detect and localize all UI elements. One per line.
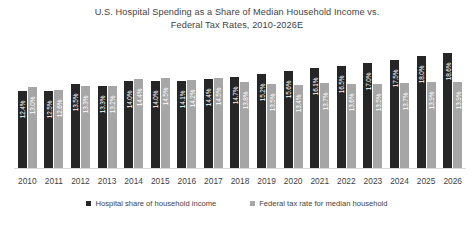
bar-value-label: 14.0% [125,91,132,109]
bar-hospital-share[interactable]: 16.1% [310,68,319,168]
bar-value-label: 14.5% [162,88,169,106]
bar-hospital-share[interactable]: 14.1% [177,81,186,168]
bar-group: 15.6%13.4% [280,44,307,168]
bar-federal-tax-rate[interactable]: 13.7% [320,83,329,168]
bar-group: 17.0%13.5% [360,44,387,168]
x-axis-label: 2020 [280,176,307,186]
x-axis-label: 2015 [147,176,174,186]
bar-value-label: 13.9% [454,92,461,110]
bar-federal-tax-rate[interactable]: 13.9% [427,82,436,168]
bar-hospital-share[interactable]: 18.0% [417,56,426,168]
bar-value-label: 13.7% [401,93,408,111]
bar-group: 13.3%13.2% [94,44,121,168]
bar-value-label: 13.8% [241,92,248,110]
bar-group: 15.2%13.5% [253,44,280,168]
bar-federal-tax-rate[interactable]: 14.2% [187,80,196,168]
bar-value-label: 14.5% [215,88,222,106]
bar-value-label: 12.5% [45,100,52,118]
bar-group: 12.5%12.6% [41,44,68,168]
bar-hospital-share[interactable]: 14.0% [151,81,160,168]
bar-federal-tax-rate[interactable]: 14.5% [214,78,223,168]
bar-federal-tax-rate[interactable]: 13.9% [453,82,462,168]
x-axis-label: 2026 [439,176,466,186]
bar-value-label: 15.6% [285,81,292,99]
bar-group: 14.7%13.8% [227,44,254,168]
bar-value-label: 18.0% [418,66,425,84]
bar-hospital-share[interactable]: 17.0% [363,63,372,168]
bar-group: 18.0%13.9% [413,44,440,168]
bar-federal-tax-rate[interactable]: 13.3% [81,86,90,168]
bar-value-label: 14.7% [231,87,238,105]
bar-group: 14.0%14.5% [147,44,174,168]
bar-hospital-share[interactable]: 18.6% [443,53,452,168]
x-axis-label: 2024 [386,176,413,186]
bar-hospital-share[interactable]: 14.7% [230,77,239,168]
bar-value-label: 14.4% [135,88,142,106]
x-axis-label: 2023 [360,176,387,186]
bar-hospital-share[interactable]: 15.2% [257,74,266,168]
bar-group: 14.4%14.5% [200,44,227,168]
bar-hospital-share[interactable]: 17.5% [390,60,399,169]
bar-value-label: 13.5% [374,94,381,112]
bar-federal-tax-rate[interactable]: 13.4% [294,85,303,168]
bar-hospital-share[interactable]: 16.5% [337,66,346,168]
bar-federal-tax-rate[interactable]: 14.4% [134,79,143,168]
bar-hospital-share[interactable]: 13.3% [98,86,107,168]
legend-swatch-icon-federal-tax-rate [250,201,255,206]
bar-value-label: 13.5% [268,94,275,112]
bar-hospital-share[interactable]: 14.4% [204,79,213,168]
bar-federal-tax-rate[interactable]: 13.5% [267,84,276,168]
bar-value-label: 13.2% [109,96,116,114]
bar-hospital-share[interactable]: 15.6% [284,71,293,168]
bar-value-label: 13.4% [295,95,302,113]
bar-value-label: 13.3% [99,95,106,113]
bar-value-label: 16.5% [338,75,345,93]
bar-value-label: 13.3% [82,95,89,113]
bar-federal-tax-rate[interactable]: 13.2% [108,86,117,168]
bar-hospital-share[interactable]: 13.5% [71,84,80,168]
legend-item-hospital-share[interactable]: Hospital share of household income [86,199,216,208]
chart-title-line-1: U.S. Hospital Spending as a Share of Med… [0,6,474,19]
bar-federal-tax-rate[interactable]: 13.5% [373,84,382,168]
bar-value-label: 17.0% [364,72,371,90]
bar-group: 13.5%13.3% [67,44,94,168]
bar-federal-tax-rate[interactable]: 13.8% [240,82,249,168]
bar-federal-tax-rate[interactable]: 13.0% [28,87,37,168]
bar-value-label: 14.1% [178,90,185,108]
chart-title-line-2: Federal Tax Rates, 2010-2026E [0,19,474,32]
bar-federal-tax-rate[interactable]: 13.7% [400,83,409,168]
bar-value-label: 13.9% [428,92,435,110]
chart-title: U.S. Hospital Spending as a Share of Med… [0,6,474,32]
bar-hospital-share[interactable]: 12.4% [18,91,27,168]
legend-item-federal-tax-rate[interactable]: Federal tax rate for median household [250,199,387,208]
bar-hospital-share[interactable]: 12.5% [44,91,53,169]
x-axis-label: 2018 [227,176,254,186]
bar-value-label: 13.5% [72,94,79,112]
bar-value-label: 18.6% [444,62,451,80]
bar-value-label: 13.6% [348,93,355,111]
bar-value-label: 13.0% [29,97,36,115]
x-axis-label: 2012 [67,176,94,186]
x-axis-label: 2016 [174,176,201,186]
x-axis-label: 2014 [120,176,147,186]
bar-federal-tax-rate[interactable]: 12.6% [54,90,63,168]
bar-value-label: 14.0% [152,91,159,109]
plot-area: 12.4%13.0%12.5%12.6%13.5%13.3%13.3%13.2%… [14,44,466,168]
x-axis-label: 2021 [306,176,333,186]
bar-group: 17.5%13.7% [386,44,413,168]
bar-value-label: 14.2% [188,90,195,108]
x-axis-label: 2011 [41,176,68,186]
x-axis-label: 2022 [333,176,360,186]
bar-federal-tax-rate[interactable]: 14.5% [161,78,170,168]
bar-group: 12.4%13.0% [14,44,41,168]
x-axis-label: 2010 [14,176,41,186]
bar-hospital-share[interactable]: 14.0% [124,81,133,168]
bar-group: 14.1%14.2% [174,44,201,168]
legend-label-hospital-share: Hospital share of household income [95,199,216,208]
legend-swatch-icon-hospital-share [86,201,91,206]
chart-legend: Hospital share of household income Feder… [0,199,474,208]
bar-federal-tax-rate[interactable]: 13.6% [347,84,356,168]
x-axis-label: 2017 [200,176,227,186]
x-axis-line [14,168,466,169]
bar-group: 18.6%13.9% [439,44,466,168]
